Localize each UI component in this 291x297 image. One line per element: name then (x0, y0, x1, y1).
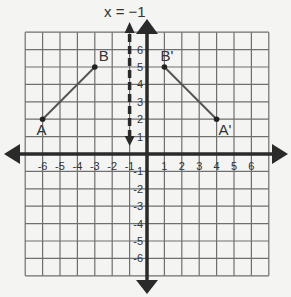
point-b (92, 64, 98, 70)
x-tick-label: -6 (38, 160, 48, 172)
axes (4, 19, 288, 294)
y-tick-label: 1 (137, 131, 143, 143)
x-axis-left-arrow-icon (4, 144, 20, 164)
segment-a-primeb' (164, 67, 216, 119)
x-tick-label: 4 (214, 160, 220, 172)
segment-ab (43, 67, 95, 119)
y-axis-up-arrow-icon (136, 19, 158, 34)
x-tick-label: -2 (107, 160, 117, 172)
y-tick-label: -3 (133, 200, 143, 212)
points: ABB'A' (37, 47, 232, 138)
y-tick-label: 2 (137, 113, 143, 125)
x-tick-label: -4 (73, 160, 83, 172)
y-tick-label: 4 (137, 78, 143, 90)
point-label: A' (219, 121, 232, 138)
reflection-line-up-arrow-icon (125, 22, 135, 33)
x-tick-label: 6 (248, 160, 254, 172)
point-label: B' (160, 47, 173, 64)
point-label: A (37, 121, 47, 138)
y-tick-label: -6 (133, 252, 143, 264)
x-tick-label: 5 (231, 160, 237, 172)
x-tick-label: -5 (55, 160, 65, 172)
y-tick-label: -5 (133, 235, 143, 247)
x-tick-label: 1 (161, 160, 167, 172)
y-axis-down-arrow-icon (136, 280, 158, 294)
x-tick-label: -3 (90, 160, 100, 172)
y-tick-label: 6 (137, 44, 143, 56)
reflection-line-label: x = −1 (104, 3, 146, 20)
x-axis-right-arrow-icon (272, 144, 288, 164)
point-label: B (99, 47, 109, 64)
y-tick-label: -4 (133, 218, 143, 230)
reflection-line-down-arrow-icon (125, 136, 135, 146)
point-b-prime (162, 64, 168, 70)
x-tick-label: 2 (179, 160, 185, 172)
coordinate-plane: -6-5-4-3-2-1123456654321-1-2-3-4-5-6 ABB… (0, 0, 291, 297)
y-tick-label: 3 (137, 96, 143, 108)
y-tick-label: -2 (133, 183, 143, 195)
x-tick-label: 3 (196, 160, 202, 172)
y-tick-label: 5 (137, 61, 143, 73)
y-tick-label: -1 (133, 165, 143, 177)
